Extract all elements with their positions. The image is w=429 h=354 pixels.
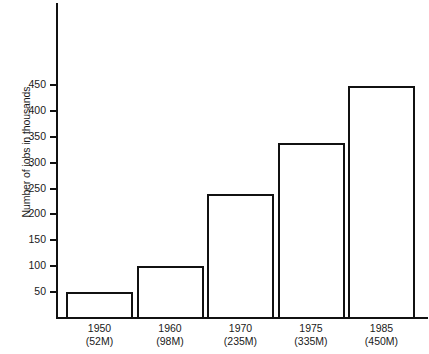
bar bbox=[348, 86, 415, 319]
x-label-year: 1960 bbox=[158, 322, 181, 334]
y-tick-label: 450 bbox=[6, 79, 46, 90]
x-tick-label: 1985(450M) bbox=[338, 322, 425, 348]
y-tick-label: 300 bbox=[6, 157, 46, 168]
y-tick-label: 400 bbox=[6, 105, 46, 116]
y-tick-mark bbox=[50, 213, 58, 215]
bar bbox=[66, 292, 133, 319]
y-tick-mark bbox=[50, 188, 58, 190]
y-tick-mark bbox=[50, 162, 58, 164]
y-tick-mark bbox=[50, 265, 58, 267]
x-label-population: (450M) bbox=[338, 335, 425, 348]
y-tick-mark bbox=[50, 239, 58, 241]
y-tick-mark bbox=[50, 136, 58, 138]
y-tick-label: 150 bbox=[6, 234, 46, 245]
bar bbox=[207, 194, 274, 319]
y-tick-mark bbox=[50, 110, 58, 112]
y-tick-label: 350 bbox=[6, 131, 46, 142]
bar-chart: Number of jobs in thousands 501001502002… bbox=[0, 0, 429, 354]
x-label-year: 1985 bbox=[370, 322, 393, 334]
y-tick-label: 100 bbox=[6, 260, 46, 271]
x-label-year: 1975 bbox=[299, 322, 322, 334]
y-tick-label: 250 bbox=[6, 183, 46, 194]
x-label-year: 1950 bbox=[88, 322, 111, 334]
x-label-year: 1970 bbox=[229, 322, 252, 334]
y-tick-mark bbox=[50, 84, 58, 86]
bar bbox=[278, 143, 345, 319]
y-tick-mark bbox=[50, 291, 58, 293]
y-tick-label: 200 bbox=[6, 208, 46, 219]
bar bbox=[137, 266, 204, 319]
y-axis-title: Number of jobs in thousands bbox=[20, 42, 32, 262]
y-tick-label: 50 bbox=[6, 286, 46, 297]
